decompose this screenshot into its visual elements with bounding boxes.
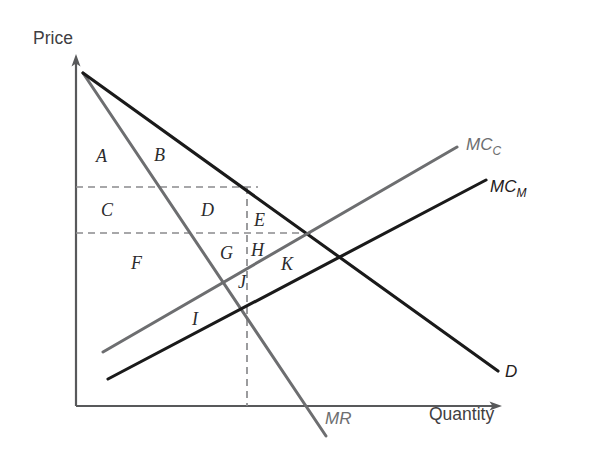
region-label-e: E bbox=[253, 210, 265, 230]
marginal-revenue-curve-label: MR bbox=[325, 409, 351, 428]
region-label-f: F bbox=[130, 253, 143, 273]
x-axis-title: Quantity bbox=[429, 404, 494, 424]
mcm-label-subscript: M bbox=[516, 186, 526, 200]
region-label-c: C bbox=[101, 200, 114, 220]
mcc-label-subscript: C bbox=[492, 144, 501, 158]
marginal-cost-competitive-curve-label: MCC bbox=[466, 135, 501, 158]
region-label-h: H bbox=[250, 240, 265, 260]
region-label-i: I bbox=[191, 309, 199, 329]
mcm-label-main: MC bbox=[490, 177, 517, 196]
demand-curve-label: D bbox=[505, 362, 517, 381]
region-label-k: K bbox=[280, 254, 294, 274]
marginal-cost-monopoly-curve bbox=[108, 180, 486, 379]
economics-diagram-figure: Price Quantity D MR MCC MCM A B C D E F … bbox=[0, 0, 612, 456]
marginal-cost-competitive-curve bbox=[103, 147, 457, 352]
mcc-label-main: MC bbox=[466, 135, 493, 154]
region-label-a: A bbox=[95, 146, 108, 166]
diagram-canvas: Price Quantity D MR MCC MCM A B C D E F … bbox=[0, 0, 612, 456]
marginal-cost-monopoly-curve-label: MCM bbox=[490, 177, 526, 200]
region-label-j: J bbox=[238, 272, 247, 292]
region-label-b: B bbox=[154, 145, 165, 165]
region-label-d: D bbox=[200, 200, 214, 220]
y-axis-title: Price bbox=[33, 28, 73, 48]
region-label-g: G bbox=[220, 243, 233, 263]
